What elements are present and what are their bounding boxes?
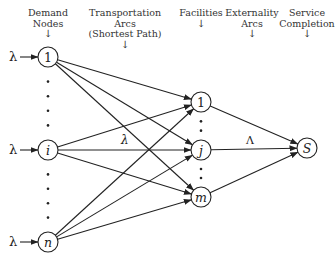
ellipsis-dot [47, 124, 50, 127]
arrival-rate-label: λ [9, 49, 17, 64]
externality-arc [211, 148, 297, 150]
node-label: n [44, 235, 52, 250]
node-label: 1 [44, 50, 52, 65]
arrival-rate-label: λ [9, 142, 17, 157]
externality-arc [210, 152, 298, 193]
arrival-rate-label: λ [9, 234, 17, 249]
ellipsis-dot [200, 177, 203, 180]
ellipsis-dot [47, 95, 50, 98]
transportation-arc [57, 155, 193, 237]
ellipsis-dot [47, 202, 50, 205]
node-label: i [46, 143, 50, 158]
ellipsis-dot [47, 216, 50, 219]
node-label: m [195, 190, 207, 205]
ellipsis-dot [47, 188, 50, 191]
ellipsis-dot [47, 173, 50, 176]
ellipsis-dot [47, 110, 50, 113]
transportation-arc [58, 60, 192, 99]
transportation-arc [58, 200, 192, 239]
node-label: S [303, 141, 312, 156]
transport-rate-label: λ [120, 133, 129, 147]
ellipsis-dot [200, 129, 203, 132]
ellipsis-dot [200, 120, 203, 123]
transportation-arc [58, 153, 192, 194]
node-label: 1 [197, 95, 205, 110]
externality-rate-label: Λ [245, 134, 255, 147]
externality-arc [210, 106, 298, 144]
network-diagram: 1in1jmS λλλλΛ [0, 0, 335, 258]
ellipsis-dot [47, 80, 50, 83]
ellipsis-dot [200, 168, 203, 171]
